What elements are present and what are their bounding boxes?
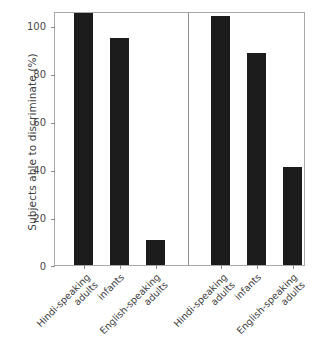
x-tick-mark-r3	[293, 265, 294, 269]
y-tick-label-80: 80	[0, 69, 46, 80]
x-tick-mark-l2	[120, 265, 121, 269]
bar-chart-figure: Subjects able to discriminate (%) 100 80…	[0, 0, 322, 350]
x-tick-mark-r1	[221, 265, 222, 269]
y-tick-mark-100	[51, 27, 55, 28]
bar-right-hindi-speaking-adults	[211, 16, 230, 265]
bar-left-infants	[110, 38, 129, 265]
y-tick-label-20: 20	[0, 213, 46, 224]
x-tick-mark-l1	[84, 265, 85, 269]
x-tick-mark-l3	[156, 265, 157, 269]
y-tick-mark-40	[51, 171, 55, 172]
bar-left-hindi-speaking-adults	[74, 13, 93, 265]
y-tick-label-40: 40	[0, 165, 46, 176]
panel-divider	[188, 13, 189, 265]
y-tick-label-60: 60	[0, 117, 46, 128]
y-tick-mark-0	[51, 266, 55, 267]
x-tick-mark-r2	[257, 265, 258, 269]
y-tick-label-0: 0	[0, 261, 46, 272]
bar-right-english-speaking-adults	[283, 167, 302, 265]
y-tick-label-100: 100	[0, 21, 46, 32]
y-tick-mark-20	[51, 219, 55, 220]
y-tick-mark-80	[51, 75, 55, 76]
bar-right-infants	[247, 53, 266, 265]
y-tick-mark-60	[51, 123, 55, 124]
y-axis-title: Subjects able to discriminate (%)	[26, 17, 38, 267]
bar-left-english-speaking-adults	[146, 240, 165, 265]
plot-area	[54, 12, 305, 266]
